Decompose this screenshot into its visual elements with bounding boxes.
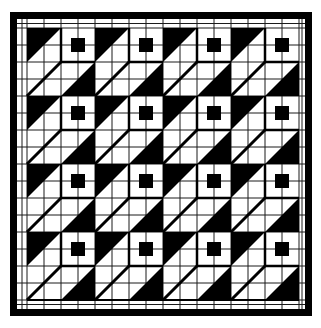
block-center-square — [139, 242, 153, 256]
quilt-pattern — [0, 0, 321, 328]
block-center-square — [207, 106, 221, 120]
block-center-square — [207, 38, 221, 52]
block-center-square — [207, 242, 221, 256]
block-center-square — [139, 106, 153, 120]
block-center-square — [275, 106, 289, 120]
block-center-square — [71, 242, 85, 256]
block-center-square — [275, 242, 289, 256]
block-center-square — [139, 174, 153, 188]
block-center-square — [71, 174, 85, 188]
block-center-square — [275, 38, 289, 52]
block-center-square — [275, 174, 289, 188]
block-center-square — [71, 106, 85, 120]
block-center-square — [207, 174, 221, 188]
block-center-square — [139, 38, 153, 52]
block-center-square — [71, 38, 85, 52]
blocks-bottom-edge — [27, 299, 299, 301]
